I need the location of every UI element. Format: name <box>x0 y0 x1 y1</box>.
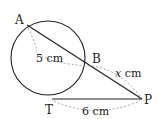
point-label-B: B <box>92 52 101 66</box>
secant-tangent-diagram: A B T P 5 cm x cm 6 cm <box>0 0 164 119</box>
point-label-P: P <box>144 93 152 107</box>
point-label-T: T <box>45 103 53 117</box>
measure-label-BP: x cm <box>115 67 142 80</box>
point-label-A: A <box>14 13 24 27</box>
measure-label-TP: 6 cm <box>82 105 110 118</box>
measure-label-AB: 5 cm <box>36 52 64 65</box>
